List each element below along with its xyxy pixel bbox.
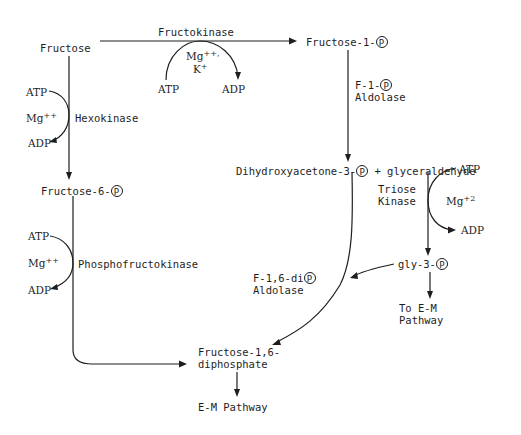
phosphate-icon: P [356,165,368,177]
compound-fructose-1-6-diphosphate: Fructose-1,6-diphosphate [198,346,280,370]
compound-dihydroxyacetone-3-phosphate: Dihydroxyacetone-3-P + glyceraldehyde [236,165,476,177]
triose-kinase-atp: ATP [459,163,480,175]
pfk-atp: ATP [28,230,49,242]
enzyme-hexokinase: Hexokinase [75,112,138,124]
enzyme-f1p-aldolase: F-1-PAldolase [355,79,406,103]
to-em-pathway-label: To E-MPathway [399,302,443,326]
hexokinase-atp: ATP [26,86,47,98]
compound-gly-3-phosphate: gly-3-P [398,258,448,270]
enzyme-f16dp-aldolase: F-1,6-diPAldolase [253,272,316,296]
phosphate-icon: P [436,258,448,270]
phosphofructokinase-arrow-line [73,196,183,364]
phosphate-icon: P [380,79,392,91]
phosphate-icon: P [376,36,388,48]
pfk-mg-cofactor: Mg++ [28,257,59,269]
dhap-to-f16dp-curve [277,172,352,342]
phosphofructokinase-arrowhead [179,361,187,368]
fructokinase-adp: ADP [222,83,245,95]
enzyme-phosphofructokinase: Phosphofructokinase [78,258,198,270]
triose-kinase-arrowhead [425,248,431,256]
triose-kinase-adp: ADP [461,224,484,236]
gly3p-to-f16dp-curve [352,264,394,277]
f1p-aldolase-arrowhead [345,154,351,162]
em-arrowhead [234,389,240,397]
compound-fructose-1-phosphate: Fructose-1-P [306,36,388,48]
em-pathway-label: E-M Pathway [198,401,268,413]
enzyme-triose-kinase: TrioseKinase [378,183,416,207]
hexokinase-adp: ADP [28,137,51,149]
enzyme-fructokinase: Fructokinase [158,26,234,38]
fructokinase-mg-cofactor: Mg++, [186,50,219,62]
hexokinase-mg-cofactor: Mg++ [26,112,57,124]
pfk-adp: ADP [28,284,51,296]
fructokinase-k-cofactor: K+ [193,63,208,75]
f16dp-aldolase-arrowhead [272,339,281,345]
phosphate-icon: P [304,272,316,284]
fructose-metabolism-diagram: Fructose Fructose-1-P Fructose-6-P Dihyd… [0,0,521,435]
compound-fructose-6-phosphate: Fructose-6-P [41,185,123,197]
fructokinase-arrowhead [289,38,297,45]
to-em-arrowhead [427,291,433,299]
fructokinase-atp: ATP [158,83,179,95]
hexokinase-arrowhead [66,172,72,180]
compound-fructose: Fructose [40,42,91,54]
triose-kinase-mg-cofactor: Mg+2 [446,195,475,207]
phosphate-icon: P [111,185,123,197]
